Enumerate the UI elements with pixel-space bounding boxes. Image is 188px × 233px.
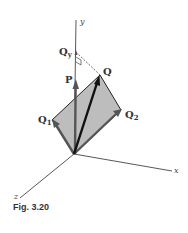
z-axis-label: z xyxy=(14,193,18,201)
q2-label: Q2 xyxy=(125,110,139,121)
vector-diagram xyxy=(0,0,188,233)
p-arrowhead xyxy=(73,79,80,89)
y-axis-label: y xyxy=(80,18,85,26)
q-label: Q xyxy=(103,67,112,77)
figure-caption: Fig. 3.20 xyxy=(13,202,49,212)
z-axis xyxy=(20,154,74,198)
right-angle-mark xyxy=(76,57,81,65)
p-vector xyxy=(75,88,76,154)
x-axis-label: x xyxy=(174,167,179,175)
q1-label: Q1 xyxy=(38,115,52,126)
p-label: P xyxy=(65,75,73,85)
projection-line xyxy=(76,52,100,75)
x-axis xyxy=(74,154,172,171)
qy-label: Qy xyxy=(59,47,72,58)
